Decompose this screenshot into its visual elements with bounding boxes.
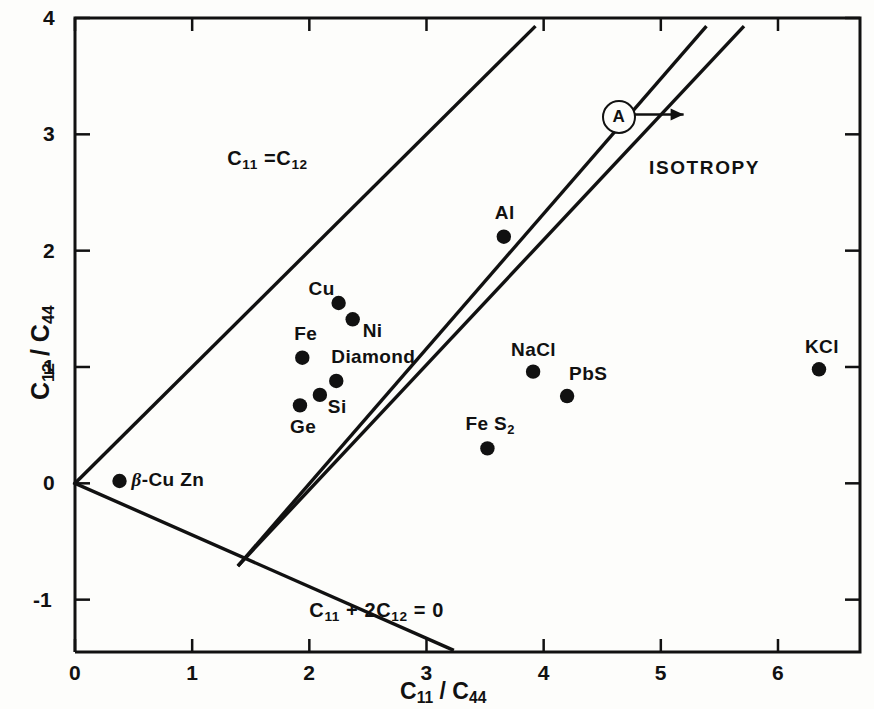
line-C11+2C12=0	[75, 483, 452, 649]
point-label: Diamond	[331, 347, 415, 366]
point-label: Ni	[363, 321, 383, 340]
point-label: β-Cu Zn	[132, 470, 205, 489]
point-label: KCl	[805, 337, 839, 356]
x-tick-label: 0	[69, 662, 81, 683]
callout-a-label: A	[612, 107, 624, 127]
data-point	[497, 230, 511, 244]
y-tick-label: 3	[43, 123, 55, 144]
data-point	[345, 312, 359, 326]
point-label: Cu	[309, 279, 335, 298]
data-point	[295, 350, 309, 364]
data-point	[293, 398, 307, 412]
boundary-lines	[75, 27, 743, 649]
x-tick-label: 5	[655, 662, 667, 683]
point-label: Ge	[290, 417, 316, 436]
point-label: NaCl	[511, 340, 556, 359]
x-axis-title: C11 / C44	[400, 680, 486, 706]
callout-arrow-head	[671, 109, 684, 121]
point-label: Fe S2	[465, 414, 514, 437]
axis-ticks	[75, 18, 860, 652]
y-tick-label: -1	[33, 589, 52, 610]
annotation-c11-plus-2c12: C11 + 2C12 = 0	[309, 600, 444, 623]
data-point	[526, 364, 540, 378]
y-tick-label: 0	[43, 472, 55, 493]
y-axis-title: C12 / C44	[26, 305, 59, 400]
chart-figure: β-Cu ZnFeGeSiDiamondCuNiFe S2AlNaClPbSKC…	[0, 0, 874, 709]
point-label: Fe	[294, 324, 317, 343]
data-point	[560, 389, 574, 403]
axis-frame	[75, 18, 860, 652]
x-tick-label: 2	[303, 662, 315, 683]
y-tick-label: 4	[43, 7, 55, 28]
point-label: Si	[328, 397, 347, 416]
axes	[75, 18, 860, 652]
data-point	[112, 474, 126, 488]
data-point	[480, 441, 494, 455]
data-point	[812, 362, 826, 376]
callout-a-badge: A	[602, 100, 636, 134]
x-tick-label: 6	[772, 662, 784, 683]
x-tick-label: 1	[186, 662, 198, 683]
annotation-c11-eq-c12: C11 =C12	[227, 148, 307, 171]
annotation-isotropy: ISOTROPY	[649, 158, 760, 177]
point-label: Al	[495, 203, 515, 222]
y-tick-label: 2	[43, 240, 55, 261]
x-tick-label: 4	[538, 662, 550, 683]
point-label: PbS	[569, 364, 607, 383]
data-point	[313, 388, 327, 402]
data-point	[329, 374, 343, 388]
data-points	[112, 230, 826, 489]
